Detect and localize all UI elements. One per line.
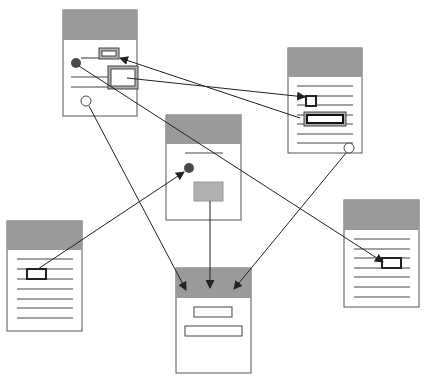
text-field-widget xyxy=(185,326,242,336)
page-flow-diagram xyxy=(0,0,430,380)
document-d-header xyxy=(7,221,82,250)
image-placeholder-widget xyxy=(194,182,223,201)
document-e-header xyxy=(344,200,419,230)
small-square-widget xyxy=(306,96,316,106)
filled-circle-icon xyxy=(184,163,194,173)
document-c xyxy=(166,115,241,220)
highlight-box-widget xyxy=(27,269,46,279)
document-b xyxy=(288,48,362,153)
small-button-widget xyxy=(99,48,119,59)
document-d xyxy=(7,221,82,331)
input-field-widget xyxy=(304,112,346,126)
open-circle-icon xyxy=(344,143,354,153)
open-circle-icon xyxy=(81,96,91,106)
document-a xyxy=(63,10,138,116)
document-f xyxy=(176,268,251,373)
document-e xyxy=(344,200,419,307)
highlight-box-widget xyxy=(382,258,401,268)
document-b-header xyxy=(288,48,362,77)
text-field-widget xyxy=(194,307,232,317)
arrow-docb-circle-to-docf xyxy=(234,153,346,289)
document-a-header xyxy=(63,10,137,40)
document-f-header xyxy=(176,268,251,298)
arrow-docb-to-doca xyxy=(120,58,300,118)
arrow-doca-to-docb xyxy=(127,78,305,97)
large-panel-widget xyxy=(108,66,138,89)
